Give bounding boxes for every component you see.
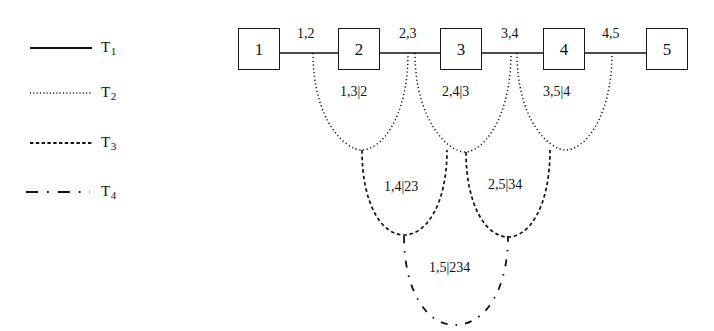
legend-label-t3: T3: [101, 135, 116, 152]
node-1: 1: [238, 28, 280, 70]
node-5-label: 5: [663, 41, 672, 58]
node-2-label: 2: [355, 41, 364, 58]
legend-item-t3: T3: [0, 128, 230, 158]
node-3: 3: [440, 28, 482, 70]
legend-item-t4: T4: [0, 177, 230, 207]
node-4-label: 4: [560, 41, 569, 58]
arc-label-2-4: 2,4|3: [441, 85, 470, 99]
node-1-label: 1: [255, 41, 264, 58]
legend-label-t2: T2: [101, 85, 116, 102]
arc-label-1-4: 1,4|23: [383, 180, 419, 194]
node-4: 4: [543, 28, 585, 70]
legend-item-t1: T1: [0, 33, 230, 63]
arc-label-1-3: 1,3|2: [339, 85, 368, 99]
arc-2-5: [466, 150, 550, 237]
edge-label-4-5: 4,5: [602, 27, 620, 41]
node-2: 2: [338, 28, 380, 70]
arc-label-1-5: 1,5|234: [428, 261, 471, 275]
arc-1-5: [404, 236, 508, 325]
legend-label-t1: T1: [101, 40, 116, 57]
edge-label-3-4: 3,4: [501, 27, 519, 41]
legend-item-t2: T2: [0, 78, 230, 108]
node-3-label: 3: [457, 41, 466, 58]
tree4-arcs: [404, 236, 508, 325]
arc-label-3-5: 3,5|4: [542, 85, 571, 99]
edge-label-2-3: 2,3: [399, 27, 417, 41]
node-5: 5: [646, 28, 688, 70]
legend-label-t4: T4: [101, 184, 116, 201]
edge-label-1-2: 1,2: [297, 27, 315, 41]
arc-label-2-5: 2,5|34: [487, 178, 523, 192]
legend: T1 T2 T3 T4: [0, 0, 230, 220]
